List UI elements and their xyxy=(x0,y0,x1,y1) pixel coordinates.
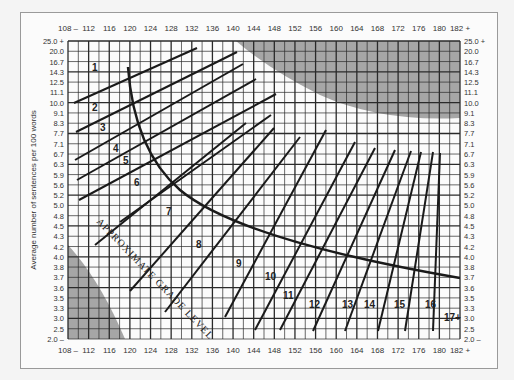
x-tick-top: 164 xyxy=(350,24,364,33)
x-tick-bottom: 116 xyxy=(103,346,116,355)
y-tick-right: 5.0 xyxy=(464,201,474,210)
y-tick-left: 5.9 xyxy=(54,171,64,180)
x-tick-top: 108 – xyxy=(58,24,79,33)
y-tick-left: 3.3 xyxy=(54,304,64,313)
y-tick-left: 4.5 xyxy=(54,222,64,231)
x-tick-top: 136 xyxy=(206,24,220,33)
x-tick-top: 148 xyxy=(268,24,282,33)
y-tick-left: 25.0 + xyxy=(43,37,65,46)
x-tick-bottom: 112 xyxy=(82,346,95,355)
x-tick-bottom: 132 xyxy=(185,346,199,355)
y-tick-left: 14.3 xyxy=(49,68,64,77)
grade-label: 2 xyxy=(92,102,98,113)
x-tick-top: 172 xyxy=(391,24,405,33)
x-tick-top: 116 xyxy=(103,24,116,33)
x-tick-bottom: 140 xyxy=(226,346,240,355)
x-tick-bottom: 172 xyxy=(391,346,405,355)
y-tick-left: 3.5 xyxy=(54,294,64,303)
x-tick-bottom: 144 xyxy=(247,346,261,355)
y-tick-left: 8.3 xyxy=(54,119,64,128)
y-tick-left: 16.7 xyxy=(49,58,64,67)
x-tick-top: 160 xyxy=(330,24,344,33)
x-tick-top: 128 xyxy=(164,24,178,33)
y-tick-right: 2.5 xyxy=(464,325,474,334)
x-tick-top: 140 xyxy=(226,24,240,33)
y-tick-right: 7.1 xyxy=(464,140,474,149)
y-tick-right: 4.8 xyxy=(464,212,474,221)
y-tick-right: 6.7 xyxy=(464,150,474,159)
grade-label: 3 xyxy=(100,122,106,133)
x-axis-top: 108 –11211612012412813213614014414815215… xyxy=(58,24,470,33)
y-tick-right: 3.5 xyxy=(464,294,474,303)
x-tick-top: 152 xyxy=(288,24,302,33)
grade-label: 6 xyxy=(134,177,140,188)
y-tick-left: 11.1 xyxy=(50,88,64,97)
y-tick-left: 12.5 xyxy=(49,78,64,87)
y-tick-right: 4.5 xyxy=(464,222,474,231)
y-tick-right: 5.9 xyxy=(464,171,474,180)
x-tick-top: 124 xyxy=(144,24,158,33)
x-tick-bottom: 108 – xyxy=(58,346,79,355)
y-tick-left: 3.0 xyxy=(54,314,64,323)
x-tick-top: 112 xyxy=(82,24,95,33)
grade-label: 9 xyxy=(236,258,242,269)
grade-label: 16 xyxy=(425,299,437,310)
grade-label: 14 xyxy=(364,299,376,310)
y-tick-right: 4.0 xyxy=(464,253,474,262)
grade-label: 1 xyxy=(92,62,98,73)
y-tick-right: 8.3 xyxy=(464,119,474,128)
x-tick-top: 180 xyxy=(433,24,447,33)
y-tick-right: 9.1 xyxy=(464,109,474,118)
x-tick-bottom: 180 xyxy=(433,346,447,355)
x-tick-bottom: 156 xyxy=(309,346,323,355)
x-tick-bottom: 164 xyxy=(350,346,364,355)
x-tick-bottom: 124 xyxy=(144,346,158,355)
y-tick-left: 10.0 xyxy=(49,99,64,108)
y-tick-left: 3.7 xyxy=(54,273,64,282)
y-tick-right: 3.0 xyxy=(464,314,474,323)
x-tick-bottom: 152 xyxy=(288,346,302,355)
y-tick-left: 3.8 xyxy=(54,263,64,272)
x-axis-bottom: 108 –11211612012412813213614014414815215… xyxy=(58,346,470,355)
y-tick-right: 3.3 xyxy=(464,304,474,313)
grade-label: 10 xyxy=(265,271,277,282)
y-tick-right: 3.8 xyxy=(464,263,474,272)
x-tick-top: 132 xyxy=(185,24,199,33)
y-tick-left: 6.7 xyxy=(54,150,64,159)
grade-label: 12 xyxy=(309,299,321,310)
x-tick-top: 120 xyxy=(123,24,137,33)
x-tick-bottom: 136 xyxy=(206,346,220,355)
x-tick-top: 144 xyxy=(247,24,261,33)
y-tick-left: 6.3 xyxy=(54,160,64,169)
y-tick-left: 5.0 xyxy=(54,201,64,210)
y-tick-right: 7.7 xyxy=(464,129,474,138)
grade-label: 13 xyxy=(342,299,354,310)
grade-label: 8 xyxy=(196,239,202,250)
y-axis-right: 25.0 +20.016.714.312.511.110.09.18.37.77… xyxy=(464,37,486,344)
y-tick-left: 20.0 xyxy=(49,47,64,56)
x-tick-top: 182 + xyxy=(450,24,471,33)
y-tick-right: 12.5 xyxy=(464,78,479,87)
y-tick-right: 5.2 xyxy=(464,191,474,200)
grade-label: 5 xyxy=(123,155,129,166)
y-axis-left: 25.0 +20.016.714.312.511.110.09.18.37.77… xyxy=(43,37,65,344)
grade-label: 7 xyxy=(166,206,172,217)
y-tick-right: 3.6 xyxy=(464,284,474,293)
x-tick-bottom: 148 xyxy=(268,346,282,355)
y-tick-left: 7.7 xyxy=(54,129,64,138)
y-tick-left: 4.8 xyxy=(54,212,64,221)
y-tick-left: 7.1 xyxy=(54,140,64,149)
x-tick-bottom: 182 + xyxy=(450,346,471,355)
y-tick-right: 11.1 xyxy=(464,88,478,97)
y-tick-left: 9.1 xyxy=(54,109,64,118)
y-tick-left: 2.5 xyxy=(54,325,64,334)
y-tick-left: 4.2 xyxy=(54,243,64,252)
y-tick-right: 3.7 xyxy=(464,273,474,282)
y-tick-left: 2.0 – xyxy=(47,335,65,344)
x-tick-top: 156 xyxy=(309,24,323,33)
y-tick-right: 14.3 xyxy=(464,68,479,77)
grade-label: 17+ xyxy=(444,312,461,323)
y-tick-right: 16.7 xyxy=(464,58,479,67)
x-tick-bottom: 160 xyxy=(330,346,344,355)
y-tick-right: 5.6 xyxy=(464,181,474,190)
